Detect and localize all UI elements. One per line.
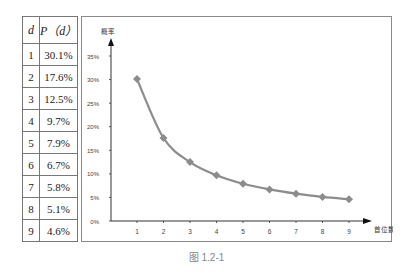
y-tick-label: 20% [87, 124, 100, 130]
header-pd: P（d） [40, 17, 78, 44]
y-axis-label: 概率 [101, 27, 115, 36]
x-axis-label: 首位数字 [374, 225, 393, 234]
table-row: 217.6% [23, 66, 78, 88]
x-tick-label: 3 [188, 228, 192, 235]
diamond-marker-icon [133, 75, 141, 83]
x-tick-label: 2 [162, 228, 166, 235]
cell-digit: 4 [23, 110, 40, 132]
diamond-marker-icon [213, 171, 221, 179]
x-tick-label: 9 [347, 228, 351, 235]
table-row: 85.1% [23, 198, 78, 220]
cell-digit: 9 [23, 220, 40, 242]
table-row: 49.7% [23, 110, 78, 132]
table-row: 130.1% [23, 44, 78, 66]
cell-probability: 12.5% [40, 88, 78, 110]
x-axis-arrow-icon [363, 218, 372, 224]
x-tick-label: 8 [321, 228, 325, 235]
diamond-marker-icon [345, 195, 353, 203]
cell-digit: 6 [23, 154, 40, 176]
x-tick-label: 5 [241, 228, 245, 235]
cell-digit: 7 [23, 176, 40, 198]
table-row: 75.8% [23, 176, 78, 198]
probability-table: d P（d） 130.1%217.6%312.5%49.7%57.9%66.7%… [22, 16, 78, 242]
cell-digit: 3 [23, 88, 40, 110]
x-tick-label: 7 [294, 228, 298, 235]
cell-digit: 8 [23, 198, 40, 220]
diamond-marker-icon [266, 185, 274, 193]
cell-probability: 9.7% [40, 110, 78, 132]
x-tick-label: 4 [215, 228, 219, 235]
table-header-row: d P（d） [23, 17, 78, 44]
line-chart: 概率首位数字0%5%10%15%20%25%30%35%123456789 [82, 17, 393, 243]
cell-probability: 30.1% [40, 44, 78, 66]
chart-frame: 概率首位数字0%5%10%15%20%25%30%35%123456789 [81, 16, 392, 242]
table-row: 312.5% [23, 88, 78, 110]
cell-digit: 1 [23, 44, 40, 66]
y-tick-label: 30% [87, 77, 100, 83]
cell-digit: 5 [23, 132, 40, 154]
header-d: d [23, 17, 40, 44]
y-tick-label: 25% [87, 101, 100, 107]
y-tick-label: 0% [90, 219, 99, 225]
cell-probability: 4.6% [40, 220, 78, 242]
y-tick-label: 10% [87, 171, 100, 177]
x-tick-label: 6 [268, 228, 272, 235]
table-row: 66.7% [23, 154, 78, 176]
figure-caption: 图 1.2-1 [0, 249, 413, 264]
y-tick-label: 5% [90, 195, 99, 201]
cell-probability: 6.7% [40, 154, 78, 176]
cell-probability: 5.1% [40, 198, 78, 220]
y-axis-arrow-icon [108, 38, 114, 46]
table-row: 57.9% [23, 132, 78, 154]
cell-probability: 7.9% [40, 132, 78, 154]
y-tick-label: 15% [87, 148, 100, 154]
cell-probability: 5.8% [40, 176, 78, 198]
cell-digit: 2 [23, 66, 40, 88]
cell-probability: 17.6% [40, 66, 78, 88]
diamond-marker-icon [319, 193, 327, 201]
diamond-marker-icon [292, 190, 300, 198]
x-tick-label: 1 [135, 228, 139, 235]
table-row: 94.6% [23, 220, 78, 242]
y-tick-label: 35% [87, 54, 100, 60]
diamond-marker-icon [239, 180, 247, 188]
